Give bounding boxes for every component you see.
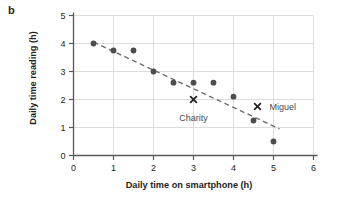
svg-text:5: 5 <box>271 163 276 173</box>
annotation-charity: Charity <box>179 113 208 123</box>
scatter-plot-figure: b Daily time reading (h) Daily time on s… <box>0 0 346 199</box>
svg-text:1: 1 <box>60 123 65 133</box>
axis-tick-labels: 0123456012345 <box>60 11 316 173</box>
annotation-miguel: Miguel <box>270 102 297 112</box>
svg-text:6: 6 <box>311 163 316 173</box>
svg-text:1: 1 <box>111 163 116 173</box>
data-points <box>91 41 277 145</box>
svg-text:4: 4 <box>60 39 65 49</box>
svg-text:2: 2 <box>151 163 156 173</box>
svg-text:0: 0 <box>60 151 65 161</box>
svg-text:0: 0 <box>71 163 76 173</box>
svg-text:3: 3 <box>191 163 196 173</box>
svg-text:2: 2 <box>60 95 65 105</box>
point-annotations: CharityMiguel <box>179 102 296 123</box>
plot-canvas: 0123456012345 CharityMiguel <box>0 0 346 199</box>
svg-text:3: 3 <box>60 67 65 77</box>
svg-text:5: 5 <box>60 11 65 21</box>
svg-text:4: 4 <box>231 163 236 173</box>
axis-ticks <box>69 16 314 161</box>
